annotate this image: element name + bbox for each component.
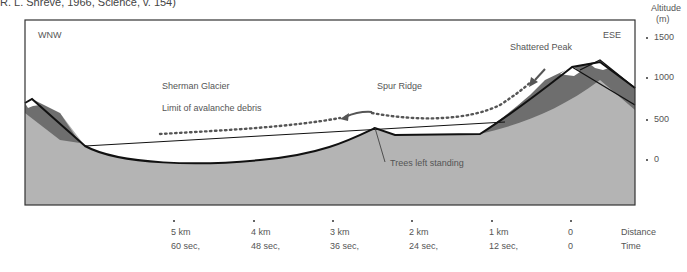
altitude-tick-500: 500 [654, 114, 669, 124]
direction-ese: ESE [603, 30, 621, 40]
time-title: Time [621, 241, 641, 251]
distance-tick: 5 km [171, 227, 191, 237]
label-trees: Trees left standing [390, 158, 464, 168]
altitude-tick-0: 0 [654, 154, 659, 164]
distance-tick-dots [173, 220, 572, 222]
distance-tick: 3 km [330, 227, 350, 237]
altitude-tick-1000: 1000 [654, 72, 674, 82]
label-sherman-glacier: Sherman Glacier [162, 81, 230, 91]
distance-tick: 1 km [489, 227, 509, 237]
altitude-title: Altitude [651, 3, 681, 13]
altitude-tick-1500: 1500 [654, 32, 674, 42]
label-shattered-peak: Shattered Peak [510, 42, 572, 52]
label-limit-debris: Limit of avalanche debris [162, 103, 262, 113]
altitude-tick-dots [646, 37, 648, 161]
peak-arrow [535, 69, 545, 80]
direction-wnw: WNW [38, 30, 62, 40]
distance-tick: 0 [568, 227, 573, 237]
time-tick: 0 [568, 241, 573, 251]
debris-arrow-left [345, 112, 372, 117]
altitude-unit: (m) [656, 14, 670, 24]
time-tick: 24 sec, [409, 241, 438, 251]
time-tick: 60 sec, [171, 241, 200, 251]
distance-tick: 4 km [251, 227, 271, 237]
debris-arrowhead-left [340, 113, 349, 121]
distance-title: Distance [621, 227, 656, 237]
time-tick: 48 sec, [251, 241, 280, 251]
time-tick: 36 sec, [330, 241, 359, 251]
label-spur-ridge: Spur Ridge [377, 81, 422, 91]
distance-tick: 2 km [409, 227, 429, 237]
time-tick: 12 sec, [489, 241, 518, 251]
